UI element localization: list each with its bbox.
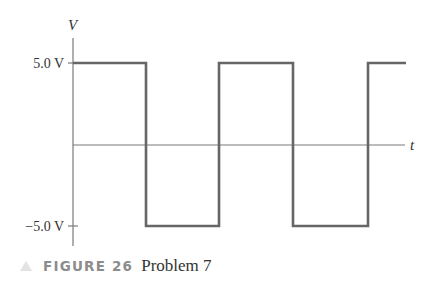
figure-number: FIGURE 26: [43, 258, 133, 274]
square-wave-figure: V t 5.0 V −5.0 V: [0, 0, 427, 293]
y-tick-label-low: −5.0 V: [25, 219, 64, 234]
y-axis-label: V: [68, 17, 79, 33]
y-tick-label-high: 5.0 V: [33, 56, 64, 71]
figure-title: Problem 7: [141, 256, 211, 276]
triangle-icon: [20, 261, 32, 271]
x-axis-label: t: [410, 137, 415, 153]
figure-caption: FIGURE 26 Problem 7: [20, 256, 212, 280]
